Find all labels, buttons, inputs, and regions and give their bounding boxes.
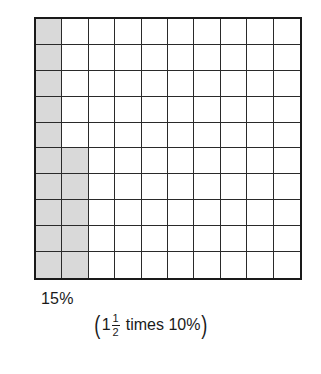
grid-cell: [221, 174, 247, 200]
grid-cell: [168, 19, 194, 45]
grid-cell: [194, 148, 220, 174]
grid-cell: [247, 148, 273, 174]
grid-cell: [221, 19, 247, 45]
grid-cell: [89, 200, 115, 226]
shaded-cell: [62, 226, 88, 252]
grid-cell: [89, 97, 115, 123]
grid-cell: [274, 174, 300, 200]
caption: ( 1 1 2 times 10% ): [93, 312, 209, 338]
grid-cell: [142, 174, 168, 200]
shaded-cell: [36, 97, 62, 123]
grid-cell: [221, 97, 247, 123]
grid-cell: [62, 19, 88, 45]
grid-cell: [89, 71, 115, 97]
grid-cell: [247, 19, 273, 45]
fraction-numerator: 1: [112, 313, 120, 326]
fraction-denominator: 2: [113, 326, 119, 338]
grid-cell: [62, 71, 88, 97]
shaded-cell: [36, 226, 62, 252]
grid-cell: [194, 45, 220, 71]
grid-cell: [115, 200, 141, 226]
grid-cell: [142, 19, 168, 45]
grid-cell: [247, 45, 273, 71]
grid-cell: [168, 148, 194, 174]
grid-cell: [115, 226, 141, 252]
grid-cell: [274, 226, 300, 252]
shaded-cell: [62, 200, 88, 226]
grid-cell: [247, 71, 273, 97]
grid-cell: [168, 97, 194, 123]
grid-cell: [142, 71, 168, 97]
grid-cell: [194, 226, 220, 252]
grid-cell: [247, 123, 273, 149]
percent-label: 15%: [41, 290, 74, 308]
grid-cell: [221, 252, 247, 278]
grid-cell: [194, 174, 220, 200]
grid-cell: [89, 45, 115, 71]
grid-cell: [168, 226, 194, 252]
grid-cell: [168, 174, 194, 200]
grid-cell: [274, 45, 300, 71]
grid-cell: [247, 226, 273, 252]
shaded-cell: [36, 45, 62, 71]
grid-cell: [142, 148, 168, 174]
grid-cell: [115, 19, 141, 45]
grid-cell: [142, 123, 168, 149]
close-paren: ): [202, 312, 208, 338]
grid-cell: [274, 123, 300, 149]
caption-fraction: 1 2: [112, 313, 120, 338]
caption-text: times 10%: [126, 316, 201, 334]
grid-cell: [168, 200, 194, 226]
grid-cell: [194, 123, 220, 149]
grid-cell: [115, 174, 141, 200]
hundred-grid: [34, 17, 302, 280]
grid-cell: [115, 148, 141, 174]
grid-cell: [221, 226, 247, 252]
grid-cell: [247, 252, 273, 278]
grid-cell: [194, 71, 220, 97]
grid-cell: [115, 45, 141, 71]
grid-cell: [274, 97, 300, 123]
grid-cell: [168, 252, 194, 278]
grid-cell: [89, 226, 115, 252]
grid-cell: [89, 252, 115, 278]
grid-cell: [274, 252, 300, 278]
grid-cell: [168, 45, 194, 71]
grid-cell: [221, 200, 247, 226]
grid-cell: [247, 200, 273, 226]
shaded-cell: [36, 252, 62, 278]
grid-cell: [247, 97, 273, 123]
shaded-cell: [36, 19, 62, 45]
grid-cell: [89, 174, 115, 200]
grid-cell: [247, 174, 273, 200]
grid-cell: [89, 148, 115, 174]
shaded-cell: [62, 174, 88, 200]
grid-cell: [221, 45, 247, 71]
grid-cell: [168, 123, 194, 149]
grid-cell: [194, 19, 220, 45]
shaded-cell: [36, 148, 62, 174]
grid-cell: [62, 123, 88, 149]
grid-cell: [142, 45, 168, 71]
caption-whole-number: 1: [102, 316, 111, 334]
grid-cell: [142, 200, 168, 226]
grid-cell: [221, 71, 247, 97]
shaded-cell: [36, 200, 62, 226]
grid-cell: [274, 19, 300, 45]
open-paren: (: [94, 312, 100, 338]
grid-cell: [115, 123, 141, 149]
grid-cell: [142, 97, 168, 123]
grid-cell: [194, 200, 220, 226]
grid-cell: [221, 148, 247, 174]
shaded-cell: [62, 148, 88, 174]
grid-cell: [62, 97, 88, 123]
shaded-cell: [36, 123, 62, 149]
grid-cell: [194, 252, 220, 278]
grid-cell: [142, 252, 168, 278]
shaded-cell: [36, 174, 62, 200]
shaded-cell: [36, 71, 62, 97]
grid-cell: [274, 200, 300, 226]
shaded-cell: [62, 252, 88, 278]
grid-cell: [274, 71, 300, 97]
grid-cell: [62, 45, 88, 71]
